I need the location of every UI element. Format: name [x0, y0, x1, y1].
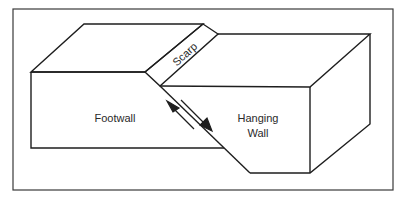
- fault-diagram: [0, 0, 406, 205]
- footwall-label: Footwall: [80, 112, 150, 125]
- hanging-wall-label-line2: Wall: [228, 127, 288, 140]
- hanging-wall-label: Hanging Wall: [228, 112, 288, 140]
- hanging-wall-label-line1: Hanging: [228, 112, 288, 125]
- hanging-wall-motion-arrow: [181, 100, 212, 131]
- footwall-front-face: [31, 72, 224, 148]
